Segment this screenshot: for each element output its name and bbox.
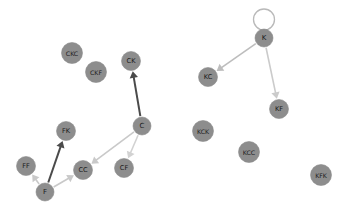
graph-canvas: CKCCKFCKCFKFFCCCFFKKCKFKCKKCCKFK bbox=[0, 0, 343, 215]
graph-node-KFK[interactable]: KFK bbox=[311, 165, 332, 186]
edge-line bbox=[54, 178, 69, 187]
graph-edge-F-to-FK bbox=[48, 141, 64, 183]
graph-svg: CKCCKFCKCFKFFCCCFFKKCKFKCKKCCKFK bbox=[0, 0, 343, 215]
graph-edge-C-to-CF bbox=[127, 135, 138, 158]
graph-edge-F-to-FF bbox=[32, 174, 39, 183]
graph-node-FK[interactable]: FK bbox=[57, 122, 76, 141]
edge-arrowhead bbox=[271, 91, 279, 98]
edge-line bbox=[48, 146, 61, 182]
node-circle[interactable] bbox=[57, 122, 76, 141]
node-circle[interactable] bbox=[193, 121, 214, 142]
node-circle[interactable] bbox=[36, 183, 54, 201]
edge-line bbox=[221, 44, 256, 68]
graph-node-KCC[interactable]: KCC bbox=[239, 142, 260, 163]
graph-edge-F-to-CC bbox=[54, 175, 74, 187]
self-loop-K bbox=[254, 9, 275, 30]
graph-node-CC[interactable]: CC bbox=[74, 161, 93, 180]
edge-line bbox=[266, 48, 276, 94]
graph-edge-K-to-KC bbox=[217, 44, 256, 71]
node-circle[interactable] bbox=[74, 161, 93, 180]
graph-node-F[interactable]: F bbox=[36, 183, 54, 201]
node-circle[interactable] bbox=[255, 29, 273, 47]
node-circle[interactable] bbox=[311, 165, 332, 186]
edge-line bbox=[134, 77, 141, 116]
edge-arrowhead bbox=[217, 64, 225, 71]
graph-node-C[interactable]: C bbox=[133, 117, 151, 135]
graph-edge-K-to-KF bbox=[266, 48, 280, 99]
graph-node-KC[interactable]: KC bbox=[199, 68, 218, 87]
edge-arrowhead bbox=[130, 71, 138, 78]
graph-edge-C-to-CK bbox=[130, 71, 141, 116]
node-circle[interactable] bbox=[122, 52, 141, 71]
nodes-layer: CKCCKFCKCFKFFCCCFFKKCKFKCKKCCKFK bbox=[17, 29, 332, 201]
node-circle[interactable] bbox=[133, 117, 151, 135]
edge-arrowhead bbox=[32, 174, 39, 182]
node-circle[interactable] bbox=[86, 62, 107, 83]
graph-node-CF[interactable]: CF bbox=[115, 159, 134, 178]
graph-node-KCK[interactable]: KCK bbox=[193, 121, 214, 142]
node-circle[interactable] bbox=[270, 100, 289, 119]
graph-node-CKF[interactable]: CKF bbox=[86, 62, 107, 83]
edge-line bbox=[130, 135, 138, 153]
graph-edge-K-to-K bbox=[254, 9, 275, 30]
graph-node-FF[interactable]: FF bbox=[17, 157, 36, 176]
node-circle[interactable] bbox=[115, 159, 134, 178]
node-circle[interactable] bbox=[62, 43, 83, 64]
node-circle[interactable] bbox=[17, 157, 36, 176]
graph-node-K[interactable]: K bbox=[255, 29, 273, 47]
graph-node-CK[interactable]: CK bbox=[122, 52, 141, 71]
graph-node-KF[interactable]: KF bbox=[270, 100, 289, 119]
edge-arrowhead bbox=[91, 156, 99, 163]
node-circle[interactable] bbox=[199, 68, 218, 87]
node-circle[interactable] bbox=[239, 142, 260, 163]
graph-node-CKC[interactable]: CKC bbox=[62, 43, 83, 64]
